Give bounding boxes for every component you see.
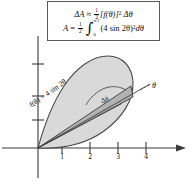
delta-theta-label: Δθ [100, 95, 109, 105]
formula-box: ΔA ≈ 1 2 [f(θ)] 2 Δθ A = 1 2 ∫ π/2 0 (4 … [47, 1, 160, 41]
x-axis-arrow-icon [176, 144, 186, 151]
integrand: (4 sin 2θ) [100, 24, 132, 33]
integral-sign-icon: ∫ [86, 23, 94, 34]
integral-lower-limit: 0 [94, 33, 100, 38]
integral-upper-limit: π/2 [94, 19, 100, 24]
fraction-denominator-2: 2 [78, 29, 83, 35]
formula-delta-area: ΔA ≈ 1 2 [f(θ)] 2 Δθ [74, 8, 132, 20]
total-area-relation: = [70, 24, 75, 33]
formula-total-area: A = 1 2 ∫ π/2 0 (4 sin 2θ) 2 dθ [63, 22, 144, 34]
delta-area-tail: Δθ [124, 10, 133, 19]
delta-area-exponent: 2 [119, 11, 122, 17]
x-axis-label-1: 1 [57, 152, 67, 161]
integral-limits: π/2 0 [94, 22, 100, 34]
theta-leader-line [140, 84, 151, 90]
x-axis-label-4: 4 [141, 152, 151, 161]
one-half-fraction-2: 1 2 [78, 22, 83, 34]
total-area-lhs: A [63, 24, 68, 33]
delta-area-relation: ≈ [87, 10, 92, 19]
theta-label: θ [152, 81, 156, 90]
x-axis-label-2: 2 [85, 152, 95, 161]
x-axis-label-3: 3 [113, 152, 123, 161]
delta-area-lhs: ΔA [74, 10, 84, 19]
differential: dθ [136, 24, 144, 33]
delta-area-body: [f(θ)] [100, 10, 119, 19]
